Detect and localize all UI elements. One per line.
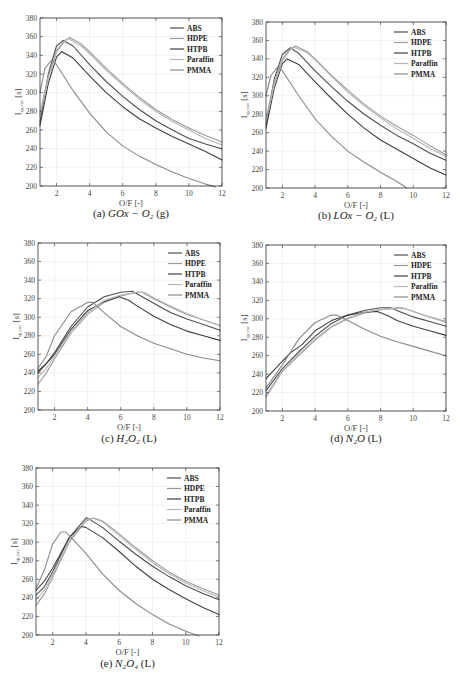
legend: ABSHDPEHTPBParaffinPMMA bbox=[394, 28, 438, 79]
x-tick-label: 8 bbox=[379, 191, 383, 200]
caption-formula: LOx − O₂ bbox=[334, 209, 378, 221]
x-tick-label: 2 bbox=[51, 638, 55, 647]
legend-item-hdpe: HDPE bbox=[184, 484, 205, 493]
legend-item-htpb: HTPB bbox=[411, 272, 431, 281]
x-tick-label: 6 bbox=[346, 414, 350, 423]
y-tick-label: 200 bbox=[252, 407, 264, 416]
subfigure-caption-b: (b) LOx − O₂ (L) bbox=[246, 209, 460, 221]
y-tick-label: 320 bbox=[22, 519, 34, 528]
caption-label: (e) bbox=[100, 657, 115, 669]
caption-phase: (L) bbox=[377, 209, 394, 221]
y-tick-label: 340 bbox=[22, 501, 34, 510]
y-tick-label: 240 bbox=[252, 147, 264, 156]
y-tick-label: 360 bbox=[24, 257, 36, 266]
y-tick-label: 380 bbox=[24, 239, 36, 248]
x-tick-label: 4 bbox=[313, 414, 317, 423]
caption-label: (c) bbox=[101, 432, 116, 444]
legend-item-htpb: HTPB bbox=[185, 270, 205, 279]
caption-formula: GOx − O₂ bbox=[108, 207, 153, 219]
legend-item-abs: ABS bbox=[185, 249, 200, 258]
x-tick-label: 6 bbox=[346, 191, 350, 200]
x-tick-label: 10 bbox=[410, 191, 418, 200]
chart-panel-c: 24681012200220240260280300320340360380O/… bbox=[38, 243, 220, 410]
y-tick-label: 280 bbox=[26, 107, 38, 116]
y-tick-label: 220 bbox=[252, 165, 264, 174]
x-axis-label: O/F [-] bbox=[116, 647, 140, 657]
caption-phase: (L) bbox=[140, 432, 157, 444]
series-line-hdpe bbox=[36, 518, 219, 605]
series-line-htpb bbox=[38, 297, 220, 371]
caption-label: (a) bbox=[93, 207, 108, 219]
legend-item-paraffin: Paraffin bbox=[185, 280, 212, 289]
x-tick-label: 2 bbox=[280, 414, 284, 423]
series-line-pmma bbox=[36, 532, 199, 636]
x-tick-label: 4 bbox=[88, 189, 92, 198]
x-tick-label: 2 bbox=[55, 189, 59, 198]
legend-item-paraffin: Paraffin bbox=[411, 282, 438, 291]
y-tick-label: 340 bbox=[26, 51, 38, 60]
y-tick-label: 220 bbox=[22, 612, 34, 621]
y-tick-label: 320 bbox=[24, 294, 36, 303]
y-axis-label: Isp,vac [s] bbox=[9, 538, 21, 565]
plot-area: 24681012200220240260280300320340360380O/… bbox=[38, 243, 220, 410]
legend-item-hdpe: HDPE bbox=[185, 259, 206, 268]
x-tick-label: 8 bbox=[152, 413, 156, 422]
y-tick-label: 200 bbox=[252, 184, 264, 193]
y-tick-label: 340 bbox=[252, 54, 264, 63]
legend-item-htpb: HTPB bbox=[411, 49, 431, 58]
y-tick-label: 380 bbox=[252, 241, 264, 250]
legend-item-abs: ABS bbox=[187, 24, 202, 33]
y-axis-label: Isp,vac [s] bbox=[239, 92, 251, 119]
y-tick-label: 320 bbox=[252, 296, 264, 305]
legend-item-pmma: PMMA bbox=[411, 70, 436, 79]
legend-item-pmma: PMMA bbox=[184, 516, 209, 525]
x-tick-label: 4 bbox=[86, 413, 90, 422]
y-tick-label: 240 bbox=[24, 368, 36, 377]
y-tick-label: 260 bbox=[252, 128, 264, 137]
caption-label: (d) bbox=[330, 432, 346, 444]
y-tick-label: 340 bbox=[24, 276, 36, 285]
series-line-htpb bbox=[36, 527, 219, 615]
x-tick-label: 2 bbox=[280, 191, 284, 200]
legend-item-hdpe: HDPE bbox=[411, 261, 432, 270]
y-tick-label: 320 bbox=[252, 73, 264, 82]
y-tick-label: 220 bbox=[26, 163, 38, 172]
x-tick-label: 12 bbox=[442, 414, 450, 423]
y-tick-label: 220 bbox=[24, 387, 36, 396]
x-tick-label: 4 bbox=[313, 191, 317, 200]
subfigure-caption-e: (e) N₂O₄ (L) bbox=[16, 657, 239, 669]
x-tick-label: 8 bbox=[154, 189, 158, 198]
x-tick-label: 12 bbox=[215, 638, 223, 647]
x-tick-label: 8 bbox=[151, 638, 155, 647]
x-tick-label: 6 bbox=[121, 189, 125, 198]
y-axis-label: Isp,vac [s] bbox=[13, 89, 25, 116]
legend-item-hdpe: HDPE bbox=[411, 38, 432, 47]
x-tick-label: 12 bbox=[218, 189, 226, 198]
caption-label: (b) bbox=[318, 209, 334, 221]
y-tick-label: 240 bbox=[252, 370, 264, 379]
legend-item-htpb: HTPB bbox=[187, 45, 207, 54]
legend-item-hdpe: HDPE bbox=[187, 34, 208, 43]
series-line-abs bbox=[38, 291, 220, 373]
y-tick-label: 380 bbox=[252, 18, 264, 27]
y-tick-label: 260 bbox=[24, 350, 36, 359]
legend: ABSHDPEHTPBParaffinPMMA bbox=[394, 251, 438, 302]
legend-item-pmma: PMMA bbox=[185, 291, 210, 300]
subfigure-caption-d: (d) N₂O (L) bbox=[246, 432, 460, 444]
x-tick-label: 10 bbox=[410, 414, 418, 423]
y-tick-label: 300 bbox=[22, 538, 34, 547]
x-tick-label: 6 bbox=[117, 638, 121, 647]
x-tick-label: 2 bbox=[53, 413, 57, 422]
caption-formula: H₂O₂ bbox=[116, 432, 140, 444]
y-tick-label: 360 bbox=[252, 36, 264, 45]
y-tick-label: 280 bbox=[24, 331, 36, 340]
y-tick-label: 200 bbox=[26, 182, 38, 191]
plot-area: 24681012200220240260280300320340360380O/… bbox=[40, 18, 222, 186]
y-tick-label: 280 bbox=[252, 333, 264, 342]
x-tick-label: 4 bbox=[84, 638, 88, 647]
x-tick-label: 10 bbox=[183, 413, 191, 422]
legend-item-htpb: HTPB bbox=[184, 495, 204, 504]
y-tick-label: 200 bbox=[24, 406, 36, 415]
legend-item-abs: ABS bbox=[411, 28, 426, 37]
x-tick-label: 12 bbox=[216, 413, 224, 422]
